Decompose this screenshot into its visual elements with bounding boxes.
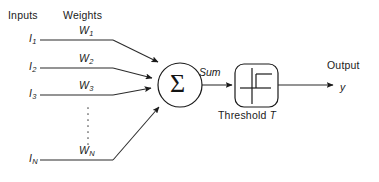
weight-label-n: WN: [79, 145, 94, 156]
weight-label-n-sub: N: [89, 149, 94, 158]
weight-label-1: W1: [79, 25, 93, 36]
input-label-2: I2: [29, 61, 36, 72]
weight-label-3-base: W: [79, 79, 89, 91]
weights-column-header: Weights: [63, 10, 102, 21]
output-variable: y: [340, 82, 345, 93]
weight-label-3-sub: 3: [89, 84, 93, 93]
sum-label: Sum: [199, 67, 221, 78]
input-label-1-sub: 1: [32, 37, 36, 46]
input-connection-n: [40, 107, 159, 160]
input-label-1: I1: [29, 33, 36, 44]
input-connection-2: [40, 68, 152, 78]
input-label-2-sub: 2: [32, 65, 36, 74]
weight-label-1-sub: 1: [89, 29, 93, 38]
summation-sigma-symbol: Σ: [170, 71, 185, 97]
weight-label-2-base: W: [79, 52, 89, 64]
weight-label-2-sub: 2: [89, 57, 93, 66]
weight-label-n-base: W: [79, 144, 89, 156]
weight-label-3: W3: [79, 80, 93, 91]
input-label-n: IN: [29, 153, 37, 164]
diagram-canvas: Inputs Weights I1 I2 I3 IN W1 W2 W3 WN Σ…: [0, 0, 379, 182]
perceptron-diagram-graphic: [0, 0, 379, 182]
threshold-caption: Threshold T: [218, 110, 276, 121]
weight-label-1-base: W: [79, 24, 89, 36]
input-label-3: I3: [29, 88, 36, 99]
input-connection-3: [40, 88, 151, 95]
threshold-caption-param: T: [270, 110, 276, 121]
input-label-n-sub: N: [32, 157, 37, 166]
threshold-caption-name: Threshold: [218, 109, 267, 121]
input-connection-1: [40, 40, 158, 62]
step-function-icon: [240, 68, 272, 104]
input-label-3-sub: 3: [32, 92, 36, 101]
weight-label-2: W2: [79, 53, 93, 64]
vertical-ellipsis-icon: [87, 107, 89, 145]
output-header: Output: [327, 60, 360, 71]
inputs-column-header: Inputs: [8, 10, 38, 21]
